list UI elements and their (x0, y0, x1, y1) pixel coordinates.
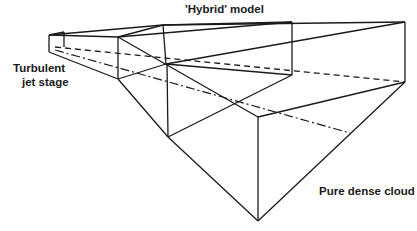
dashdot-axis-line (55, 50, 350, 133)
turbulent-label-line2: jet stage (22, 76, 69, 89)
hybrid-model-label: 'Hybrid' model (185, 3, 264, 16)
top-edges (49, 22, 405, 37)
pure-dense-cloud-label: Pure dense cloud (319, 185, 415, 198)
turbulent-jet-box (49, 32, 118, 52)
turbulent-label-line1: Turbulent (13, 62, 65, 75)
